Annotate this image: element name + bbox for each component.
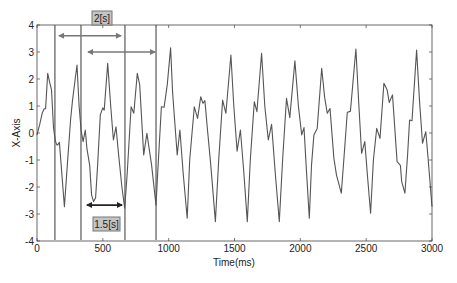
plot-area — [37, 25, 432, 241]
y-tick-label: -4 — [25, 236, 34, 247]
annotation-label-1-5s: 1.5[s] — [94, 219, 119, 230]
annotation-label-2s: 2[s] — [94, 13, 110, 24]
x-axis-label: Time(ms) — [213, 257, 255, 268]
y-axis-label: X-Axis — [11, 119, 22, 148]
x-tick-label: 3000 — [421, 243, 444, 254]
y-tick-label: 2 — [28, 74, 34, 85]
x-tick-label: 1000 — [158, 243, 181, 254]
x-tick-label: 0 — [34, 243, 40, 254]
y-tick-label: -3 — [25, 209, 34, 220]
annotation-box-2s: 2[s] — [92, 11, 112, 25]
y-tick-label: -1 — [25, 155, 34, 166]
annotation-box-1-5s: 1.5[s] — [93, 217, 120, 231]
y-tick-label: -2 — [25, 182, 34, 193]
x-tick-label: 2500 — [355, 243, 378, 254]
chart: 050010001500200025003000-4-3-2-101234 Ti… — [0, 0, 457, 283]
y-tick-label: 1 — [28, 101, 34, 112]
x-tick-label: 500 — [94, 243, 111, 254]
x-tick-label: 1500 — [223, 243, 246, 254]
y-tick-label: 3 — [28, 47, 34, 58]
y-tick-label: 0 — [28, 128, 34, 139]
y-tick-label: 4 — [28, 20, 34, 31]
x-tick-label: 2000 — [289, 243, 312, 254]
